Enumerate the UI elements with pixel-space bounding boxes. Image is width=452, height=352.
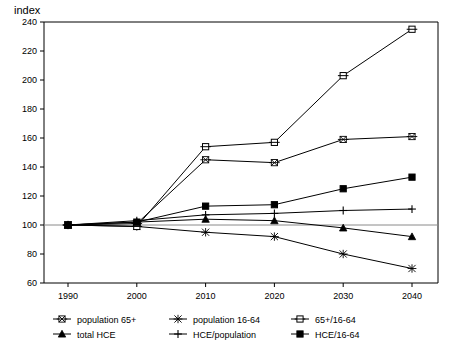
y-tick-label: 240 (22, 17, 37, 27)
legend-label: 65+/16-64 (315, 315, 356, 325)
x-tick-label: 1990 (58, 291, 78, 301)
y-axis-ticks: 6080100120140160180200220240 (22, 17, 44, 288)
series-path (68, 225, 412, 269)
chart-legend: population 65+population 16-6465+/16-64t… (53, 315, 360, 340)
x-tick-label: 2010 (196, 291, 216, 301)
legend-label: population 65+ (77, 315, 136, 325)
legend-item-hce-population[interactable]: HCE/population (169, 330, 256, 340)
marker-filled-square (340, 186, 346, 192)
legend-item-65-16-64[interactable]: 65+/16-64 (291, 315, 356, 325)
legend-label: total HCE (77, 330, 116, 340)
y-tick-label: 220 (22, 46, 37, 56)
series-path (68, 137, 412, 225)
x-tick-label: 2020 (264, 291, 284, 301)
y-tick-label: 200 (22, 75, 37, 85)
x-axis-ticks: 199020002010202020302040 (58, 283, 422, 301)
series-path (68, 29, 412, 226)
y-tick-label: 60 (27, 278, 37, 288)
y-tick-label: 140 (22, 162, 37, 172)
plot-border (44, 22, 438, 283)
marker-filled-square (65, 222, 71, 228)
legend-label: HCE/population (193, 330, 256, 340)
series-path (68, 177, 412, 225)
y-tick-label: 160 (22, 133, 37, 143)
legend-item-total-hce[interactable]: total HCE (53, 330, 116, 340)
y-tick-label: 80 (27, 249, 37, 259)
y-tick-label: 180 (22, 104, 37, 114)
y-tick-label: 100 (22, 220, 37, 230)
chart-container: index 6080100120140160180200220240 19902… (0, 0, 452, 352)
y-axis-title-group: index (14, 4, 41, 16)
marker-filled-square (203, 203, 209, 209)
marker-filled-square (271, 202, 277, 208)
plot-frame (44, 22, 438, 283)
series-population-16-64 (64, 221, 417, 273)
y-tick-label: 120 (22, 191, 37, 201)
x-tick-label: 2000 (127, 291, 147, 301)
marker-filled-square (134, 219, 140, 225)
marker-filled-square (409, 174, 415, 180)
series-total-hce (64, 216, 415, 240)
line-chart: index 6080100120140160180200220240 19902… (0, 0, 452, 352)
legend-label: HCE/16-64 (315, 330, 360, 340)
marker-filled-square (297, 331, 303, 337)
y-axis-title: index (14, 4, 41, 16)
legend-item-hce-16-64[interactable]: HCE/16-64 (291, 330, 360, 340)
legend-item-population-65-[interactable]: population 65+ (53, 315, 136, 325)
series-65-16-64 (63, 26, 418, 229)
series-layer (63, 26, 418, 273)
legend-label: population 16-64 (193, 315, 260, 325)
x-tick-label: 2040 (402, 291, 422, 301)
x-tick-label: 2030 (333, 291, 353, 301)
legend-item-population-16-64[interactable]: population 16-64 (169, 315, 260, 325)
